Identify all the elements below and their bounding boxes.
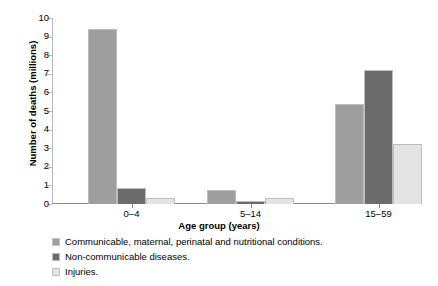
legend-swatch-icon (52, 253, 60, 261)
bar-group (335, 18, 422, 204)
legend-label: Injuries. (65, 266, 98, 277)
y-tick-label: 5 (44, 105, 49, 117)
y-tick-label: 1 (44, 179, 49, 191)
y-tick-label: 7 (44, 67, 49, 79)
bar (117, 188, 146, 204)
y-tick-label: 3 (44, 142, 49, 154)
bar (364, 70, 393, 204)
y-tick-label: 2 (44, 160, 49, 172)
legend-item: Injuries. (52, 264, 438, 279)
legend-label: Communicable, maternal, perinatal and nu… (65, 236, 323, 247)
plot-area: 012345678910 (52, 18, 418, 204)
y-axis-line (52, 18, 53, 204)
x-tick-label: 5–14 (211, 208, 291, 219)
bar (146, 198, 175, 204)
x-tick-label: 15–59 (339, 208, 419, 219)
legend-swatch-icon (52, 268, 60, 276)
bar (265, 198, 294, 204)
x-axis-title: Age group (years) (0, 220, 438, 231)
y-tick-label: 10 (38, 12, 49, 24)
bar-group (88, 18, 175, 204)
y-tick-label: 4 (44, 123, 49, 135)
y-tick-label: 8 (44, 49, 49, 61)
y-tick-label: 6 (44, 86, 49, 98)
legend-label: Non-communicable diseases. (65, 251, 190, 262)
y-tick-label: 0 (44, 198, 49, 210)
legend-swatch-icon (52, 238, 60, 246)
bar-chart-figure: Number of deaths (millions) 012345678910… (0, 0, 438, 286)
bar (335, 104, 364, 204)
x-tick-label: 0–4 (92, 208, 172, 219)
bar (207, 190, 236, 204)
y-tick-label: 9 (44, 30, 49, 42)
bar (88, 29, 117, 204)
legend-item: Non-communicable diseases. (52, 249, 438, 264)
bar-group (207, 18, 294, 204)
bar (393, 144, 422, 204)
y-axis-title: Number of deaths (millions) (27, 14, 38, 194)
chart-legend: Communicable, maternal, perinatal and nu… (52, 234, 438, 279)
legend-item: Communicable, maternal, perinatal and nu… (52, 234, 438, 249)
